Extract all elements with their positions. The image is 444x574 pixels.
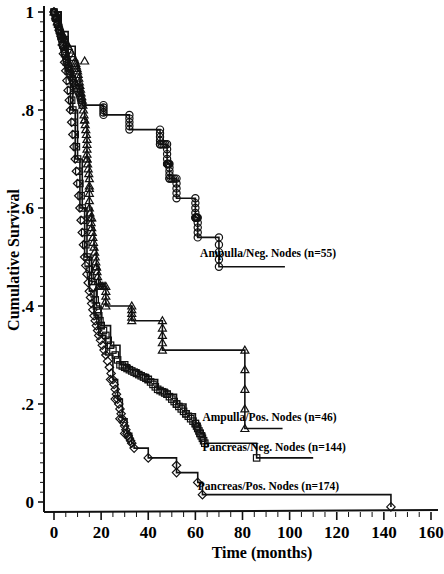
triangle-marker — [81, 57, 89, 64]
x-tick-label: 100 — [277, 523, 303, 542]
x-tick-label: 60 — [187, 523, 204, 542]
series-label: Ampulla/Pos. Nodes (n=46) — [202, 411, 336, 424]
x-tick-label: 120 — [324, 523, 350, 542]
x-tick-label: 140 — [371, 523, 397, 542]
x-tick-label: 20 — [93, 523, 110, 542]
y-tick-label: .4 — [21, 297, 34, 316]
x-tick-label: 40 — [140, 523, 157, 542]
series-label: Pancreas/Neg. Nodes (n=144) — [202, 441, 346, 454]
series-label: Ampulla/Neg. Nodes (n=55) — [200, 247, 336, 260]
y-tick-label: .8 — [21, 101, 34, 120]
x-axis-title: Time (months) — [212, 544, 313, 562]
x-tick-label: 160 — [418, 523, 444, 542]
series-group — [50, 8, 395, 511]
y-axis-title: Cumulative Survival — [5, 189, 22, 331]
x-axis-line — [44, 510, 438, 512]
y-tick-label: 1 — [26, 3, 35, 22]
y-tick-label: 0 — [26, 493, 35, 512]
labels: Ampulla/Neg. Nodes (n=55)Ampulla/Pos. No… — [198, 247, 346, 493]
y-tick-label: .6 — [21, 199, 34, 218]
x-tick-label: 0 — [50, 523, 59, 542]
y-tick-label: .2 — [21, 395, 34, 414]
kaplan-meier-chart: 0.2.4.6.81020406080100120140160Time (mon… — [0, 0, 444, 574]
series-label: Pancreas/Pos. Nodes (n=174) — [198, 480, 340, 493]
x-tick-label: 80 — [234, 523, 251, 542]
